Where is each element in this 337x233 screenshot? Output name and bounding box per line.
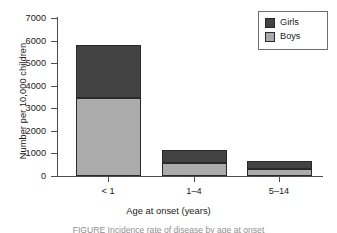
y-tick-label-4000: 4000 (2, 82, 46, 91)
y-tick-4000 (51, 86, 57, 87)
y-tick-label-7000: 7000 (2, 14, 46, 23)
x-axis-line (57, 176, 323, 177)
bar-segment-boys-1to4 (162, 163, 227, 176)
x-tick-5to14 (279, 176, 280, 182)
y-tick-1000 (51, 153, 57, 154)
bar-segment-boys-lt1 (76, 98, 141, 176)
legend-label-boys: Boys (280, 32, 300, 41)
legend-label-girls: Girls (280, 18, 299, 27)
figure-caption-cropped: FIGURE Incidence rate of disease by age … (0, 226, 337, 233)
x-tick-label-5to14: 5–14 (244, 186, 314, 196)
legend-swatch-boys-icon (265, 32, 275, 42)
y-tick-7000 (51, 18, 57, 19)
bar-segment-girls-lt1 (76, 45, 141, 98)
legend-swatch-girls-icon (265, 18, 275, 28)
y-tick-label-1000: 1000 (2, 149, 46, 158)
y-tick-label-0: 0 (2, 172, 46, 181)
x-tick-1to4 (194, 176, 195, 182)
y-tick-label-5000: 5000 (2, 59, 46, 68)
figure-caption-text: FIGURE Incidence rate of disease by age … (0, 226, 337, 233)
x-tick-label-1to4: 1–4 (159, 186, 229, 196)
y-tick-0 (51, 176, 57, 177)
bar-segment-girls-1to4 (162, 150, 227, 163)
x-tick-label-lt1: < 1 (73, 186, 143, 196)
chart-figure: Number per 10,000 children 0 1000 2000 3… (0, 0, 337, 233)
y-tick-label-6000: 6000 (2, 37, 46, 46)
y-tick-label-3000: 3000 (2, 104, 46, 113)
y-tick-3000 (51, 108, 57, 109)
y-tick-label-2000: 2000 (2, 127, 46, 136)
y-tick-5000 (51, 63, 57, 64)
x-tick-lt1 (108, 176, 109, 182)
x-axis-label: Age at onset (years) (0, 205, 337, 216)
y-tick-6000 (51, 41, 57, 42)
legend: Girls Boys (258, 11, 328, 50)
bar-segment-boys-5to14 (247, 169, 312, 176)
legend-entry-girls: Girls (265, 16, 322, 30)
bar-segment-girls-5to14 (247, 161, 312, 169)
y-axis-line (57, 17, 58, 177)
legend-entry-boys: Boys (265, 30, 322, 44)
y-tick-2000 (51, 131, 57, 132)
